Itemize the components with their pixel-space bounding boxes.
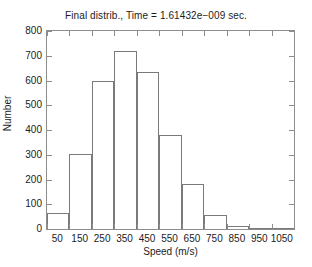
y-axis-tick	[289, 204, 294, 205]
y-axis-tick-label: 100	[0, 198, 42, 209]
y-axis-tick	[47, 56, 52, 57]
x-axis-tick	[227, 31, 228, 36]
chart-title: Final distrib., Time = 1.61432e−009 sec.	[0, 10, 312, 21]
x-axis-tick	[47, 31, 48, 36]
y-axis-tick	[47, 180, 52, 181]
y-axis-tick	[47, 155, 52, 156]
x-axis-tick	[249, 31, 250, 36]
histogram-bar	[137, 72, 159, 229]
y-axis-tick	[289, 56, 294, 57]
y-axis-tick-label: 200	[0, 173, 42, 184]
histogram-bar	[227, 226, 249, 229]
histogram-bar	[249, 228, 271, 229]
y-axis-tick	[47, 204, 52, 205]
x-axis-tick	[114, 31, 115, 36]
histogram-bar	[92, 81, 114, 229]
x-axis-tick	[204, 224, 205, 229]
histogram-bar	[182, 184, 204, 229]
x-axis-tick	[114, 224, 115, 229]
histogram-bar	[114, 51, 136, 229]
y-axis-tick-label: 0	[0, 223, 42, 234]
y-axis-label: Number	[2, 84, 13, 144]
x-axis-tick	[92, 31, 93, 36]
y-axis-tick-label: 800	[0, 25, 42, 36]
x-axis-tick	[182, 224, 183, 229]
x-axis-tick	[204, 31, 205, 36]
x-axis-tick	[159, 224, 160, 229]
x-axis-tick	[69, 31, 70, 36]
x-axis-tick	[69, 224, 70, 229]
x-axis-tick	[92, 224, 93, 229]
y-axis-tick	[289, 229, 294, 230]
x-axis-tick	[294, 224, 295, 229]
x-axis-label: Speed (m/s)	[46, 246, 295, 257]
histogram-bar	[204, 215, 226, 229]
x-axis-tick	[159, 31, 160, 36]
y-axis-tick	[289, 180, 294, 181]
histogram-bar	[69, 154, 91, 229]
y-axis-tick	[47, 229, 52, 230]
histogram-bars	[47, 31, 294, 229]
y-axis-tick	[47, 130, 52, 131]
y-axis-tick	[47, 81, 52, 82]
y-axis-tick	[289, 105, 294, 106]
y-axis-tick	[289, 155, 294, 156]
x-axis-tick	[272, 224, 273, 229]
y-axis-tick	[289, 81, 294, 82]
plot-area	[46, 30, 295, 230]
x-axis-tick-label: 1050	[265, 233, 299, 244]
x-axis-tick	[137, 31, 138, 36]
x-axis-tick	[272, 31, 273, 36]
x-axis-tick	[294, 31, 295, 36]
y-axis-tick	[289, 130, 294, 131]
x-axis-tick	[137, 224, 138, 229]
y-axis-tick-label: 300	[0, 148, 42, 159]
histogram-figure: Final distrib., Time = 1.61432e−009 sec.…	[0, 0, 312, 267]
histogram-bar	[159, 135, 181, 229]
x-axis-tick	[47, 224, 48, 229]
x-axis-tick	[227, 224, 228, 229]
y-axis-tick	[47, 105, 52, 106]
x-axis-tick	[249, 224, 250, 229]
y-axis-tick-label: 700	[0, 49, 42, 60]
x-axis-tick-labels: 501502503504505506507508509501050	[46, 233, 295, 247]
histogram-bar	[47, 213, 69, 229]
x-axis-tick	[182, 31, 183, 36]
